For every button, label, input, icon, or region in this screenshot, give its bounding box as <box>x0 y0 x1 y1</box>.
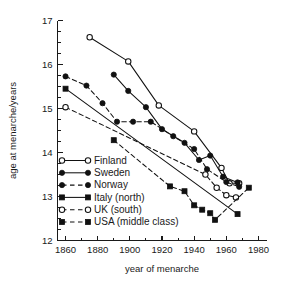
y-axis-tick-label: 12 <box>42 235 53 246</box>
legend-item-label: USA (middle class) <box>94 216 178 227</box>
legend-marker-end <box>85 207 90 212</box>
legend-marker-start <box>59 158 64 163</box>
legend-item-uk-south[interactable]: UK (south) <box>59 204 141 215</box>
legend-marker-start <box>59 183 64 188</box>
data-point <box>148 119 153 124</box>
data-point <box>111 72 116 77</box>
data-point <box>192 146 197 151</box>
legend-marker-start <box>59 207 64 212</box>
data-point <box>143 105 148 110</box>
legend-marker-end <box>86 220 91 225</box>
legend-marker-start <box>59 170 64 175</box>
data-point <box>63 74 68 79</box>
legend-item-label: UK (south) <box>94 204 142 215</box>
data-point <box>237 184 242 189</box>
legend-item-norway[interactable]: Norway <box>59 179 128 190</box>
legend-item-label: Italy (north) <box>94 192 145 203</box>
legend-marker-start <box>60 220 65 225</box>
legend-marker-start <box>60 195 65 200</box>
data-point <box>84 83 89 88</box>
legend-marker-end <box>85 158 90 163</box>
series-line <box>66 76 240 186</box>
data-point <box>156 103 161 108</box>
chart-container: 1213141516171860188019001920194019601980… <box>0 0 286 286</box>
data-point <box>168 184 173 189</box>
legend-marker-end <box>85 183 90 188</box>
x-axis-tick-label: 1860 <box>55 244 76 255</box>
data-point <box>213 217 218 222</box>
data-point <box>224 179 229 184</box>
legend-item-sweden[interactable]: Sweden <box>59 167 130 178</box>
y-axis-tick-label: 15 <box>42 103 53 114</box>
data-point <box>219 165 224 170</box>
y-axis-tick-label: 17 <box>42 15 53 26</box>
data-point <box>192 203 197 208</box>
legend-marker-end <box>86 195 91 200</box>
data-point <box>114 119 119 124</box>
x-axis-tick-label: 1920 <box>151 244 172 255</box>
data-point <box>126 59 131 64</box>
data-series-layer <box>63 35 251 223</box>
data-point <box>235 212 240 217</box>
data-point <box>130 119 135 124</box>
data-point <box>204 167 209 172</box>
legend-item-usa-middle-class[interactable]: USA (middle class) <box>60 216 179 227</box>
x-axis-tick-label: 1900 <box>119 244 140 255</box>
data-point <box>171 134 176 139</box>
legend-item-finland[interactable]: Finland <box>59 155 127 166</box>
data-point <box>246 185 251 190</box>
menarche-age-line-chart: 1213141516171860188019001920194019601980… <box>0 0 286 286</box>
chart-legend: FinlandSwedenNorwayItaly (north)UK (sout… <box>59 155 178 228</box>
x-axis-tick-label: 1940 <box>184 244 205 255</box>
x-axis-title: year of menarche <box>125 263 199 274</box>
legend-item-label: Norway <box>94 179 128 190</box>
legend-item-label: Sweden <box>94 167 130 178</box>
data-point <box>63 86 68 91</box>
legend-marker-end <box>85 170 90 175</box>
data-point <box>200 207 205 212</box>
data-point <box>182 189 187 194</box>
data-point <box>203 172 208 177</box>
x-axis-tick-label: 1880 <box>87 244 108 255</box>
y-axis-tick-label: 14 <box>42 147 53 158</box>
data-point <box>111 138 116 143</box>
series-line <box>66 89 238 214</box>
x-axis-tick-label: 1960 <box>216 244 237 255</box>
data-point <box>214 185 219 190</box>
x-axis-tick-label: 1980 <box>248 244 269 255</box>
data-point <box>63 104 68 109</box>
legend-item-label: Finland <box>94 155 127 166</box>
data-point <box>191 129 196 134</box>
data-point <box>126 88 131 93</box>
data-point <box>224 192 229 197</box>
y-axis-tick-label: 13 <box>42 191 53 202</box>
legend-item-italy-north[interactable]: Italy (north) <box>60 192 145 203</box>
y-axis-tick-label: 16 <box>42 59 53 70</box>
data-point <box>100 101 105 106</box>
data-point <box>208 211 213 216</box>
y-axis-title: age at menarche/years <box>7 82 18 179</box>
data-point <box>208 153 213 158</box>
data-point <box>87 35 92 40</box>
